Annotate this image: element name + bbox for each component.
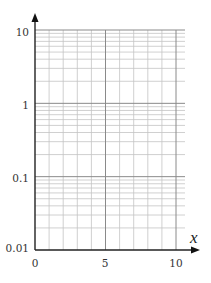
y-tick-label: 1 [22, 99, 29, 111]
y-tick-labels: 10 1 0.1 0.01 [6, 26, 29, 254]
x-axis-title: x [189, 228, 198, 247]
x-tick-labels: 0 5 10 [32, 257, 183, 269]
x-tick-label: 0 [32, 257, 39, 269]
y-tick-label: 10 [16, 26, 29, 38]
semilog-chart: 10 1 0.1 0.01 0 5 10 x [0, 0, 211, 283]
axes [32, 13, 201, 254]
x-axis-arrow-icon [191, 247, 200, 254]
y-tick-label: 0.01 [6, 242, 29, 254]
major-grid [35, 30, 185, 250]
x-tick-label: 5 [102, 257, 109, 269]
y-tick-label: 0.1 [12, 172, 29, 184]
x-tick-label: 10 [169, 257, 182, 269]
minor-grid [35, 30, 185, 250]
y-axis-arrow-icon [32, 13, 39, 22]
